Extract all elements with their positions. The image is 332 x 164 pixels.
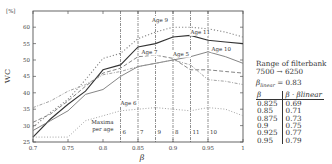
maxima-marker-label: 7 (140, 129, 144, 135)
y-tick-label: 55 (23, 41, 30, 47)
y-tick-label: 60 (23, 24, 30, 30)
beta-product-value: 0.79 (282, 137, 324, 144)
x-axis-label: β (139, 153, 145, 162)
maxima-marker-label: 6 (123, 129, 127, 135)
x-tick-label: 0.9 (169, 145, 178, 151)
y-tick-label: 35 (23, 106, 30, 112)
maxima-marker-label: 9 (158, 129, 162, 135)
series-annotation: Age 11 (190, 29, 211, 36)
maxima-marker-label: 11 (193, 129, 200, 135)
y-tick-label: 50 (23, 57, 30, 63)
x-tick-label: 0.85 (132, 145, 145, 151)
y-unit-label: [%] (6, 8, 16, 14)
beta-table-row: 0.950.79 (256, 137, 324, 144)
series-annotation: Age 9 (151, 17, 168, 24)
series-annotation: Age 6 (120, 100, 137, 107)
maxima-marker-label: 8 (175, 129, 179, 135)
x-tick-label: 0.8 (99, 145, 108, 151)
y-tick-label: 30 (23, 123, 30, 129)
x-tick-label: 0.75 (62, 145, 75, 151)
filterbank-info-panel: Range of filterbank 7500 → 6250 βlinear … (256, 60, 326, 144)
beta-value: 0.95 (256, 137, 282, 144)
x-tick-label: 0.7 (29, 145, 38, 151)
series-annotation: Age 5 (172, 51, 189, 58)
wc-vs-beta-chart: 25303540455055600.70.750.80.850.90.951βW… (0, 0, 250, 164)
svg-text:per age: per age (92, 126, 113, 133)
svg-text:Maxima: Maxima (91, 119, 114, 125)
annotations: Age 9Age 11Age 7Age 5Age 10Age 6 (120, 17, 232, 107)
series-annotation: Age 10 (211, 46, 232, 53)
series-annotation: Age 7 (141, 49, 158, 56)
y-tick-label: 45 (23, 73, 30, 79)
maxima-marker-label: 10 (210, 129, 217, 135)
x-tick-label: 1 (241, 145, 245, 151)
beta-linear-equation: βlinear = 0.83 (256, 79, 326, 89)
y-tick-label: 40 (23, 90, 30, 96)
panel-title-line2: 7500 → 6250 (256, 68, 326, 76)
x-tick-label: 0.95 (202, 145, 215, 151)
beta-table: β β · βlinear 0.8250.690.850.710.8750.73… (256, 91, 324, 144)
y-axis-label: WC (3, 69, 12, 83)
